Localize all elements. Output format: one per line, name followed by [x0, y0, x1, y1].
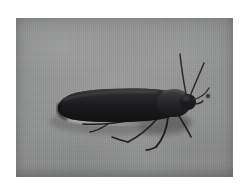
- moth-photograph: [16, 18, 233, 177]
- photo-edge-vignette: [16, 18, 233, 177]
- page-root: Dark grey-brown moth at rest on pale gre…: [0, 0, 251, 194]
- photo-caption: Dark grey-brown moth at rest on pale gre…: [0, 0, 1, 1]
